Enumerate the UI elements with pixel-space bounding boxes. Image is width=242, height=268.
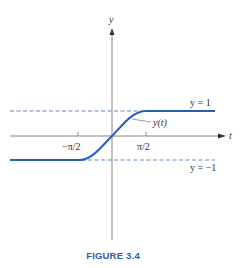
tick-label-pi-half: π/2 bbox=[137, 141, 150, 152]
figure-caption: FIGURE 3.4 bbox=[0, 250, 226, 261]
curve-y-of-t bbox=[10, 111, 215, 160]
upper-asymptote-label: y = 1 bbox=[190, 97, 211, 108]
t-axis-arrow-icon bbox=[218, 134, 226, 139]
tick-label-neg-pi-half: −π/2 bbox=[62, 141, 80, 152]
figure-canvas: y t −π/2 π/2 y = 1 y = −1 y(t) bbox=[0, 0, 242, 268]
y-axis-arrow-icon bbox=[110, 28, 115, 35]
y-axis-label: y bbox=[108, 14, 114, 25]
t-axis-label: t bbox=[229, 130, 232, 141]
curve-label: y(t) bbox=[152, 117, 168, 129]
lower-asymptote-label: y = −1 bbox=[190, 162, 216, 173]
curve-label-leader bbox=[132, 119, 151, 122]
